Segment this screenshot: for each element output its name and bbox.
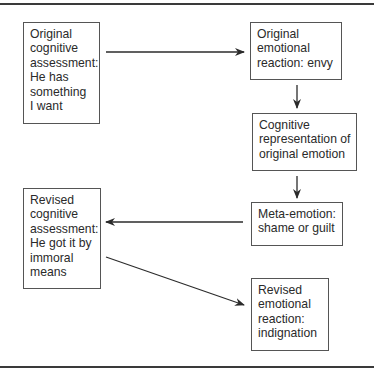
node-line: He has — [30, 70, 93, 84]
node-cognitive-representation: Cognitive representation of original emo… — [252, 113, 357, 171]
node-line: assessment: — [30, 56, 93, 70]
node-revised-cognitive-assessment: Revised cognitive assessment: He got it … — [23, 188, 101, 289]
node-line: indignation — [258, 326, 322, 340]
node-line: something — [30, 85, 93, 99]
node-line: He got it by — [30, 236, 94, 250]
node-line: Meta-emotion: — [258, 207, 336, 221]
node-line: immoral — [30, 251, 94, 265]
node-line: Cognitive — [259, 118, 350, 132]
node-line: assessment: — [30, 222, 94, 236]
node-revised-emotional-reaction: Revised emotional reaction: indignation — [251, 278, 329, 351]
node-line: Revised — [258, 283, 322, 297]
node-line: representation of — [259, 132, 350, 146]
node-original-emotional-reaction: Original emotional reaction: envy — [250, 22, 342, 80]
node-line: original emotion — [259, 147, 350, 161]
node-line: shame or guilt — [258, 221, 336, 235]
node-line: Original — [30, 27, 93, 41]
node-line: means — [30, 265, 94, 279]
node-meta-emotion: Meta-emotion: shame or guilt — [251, 202, 343, 246]
node-line: Original — [257, 27, 335, 41]
arrow-n5-to-n6 — [106, 257, 244, 305]
node-line: Revised — [30, 193, 94, 207]
node-line: reaction: envy — [257, 56, 335, 70]
node-line: reaction: — [258, 312, 322, 326]
node-line: cognitive — [30, 207, 94, 221]
node-original-cognitive-assessment: Original cognitive assessment: He has so… — [23, 22, 100, 124]
node-line: cognitive — [30, 41, 93, 55]
node-line: emotional — [258, 297, 322, 311]
node-line: emotional — [257, 41, 335, 55]
node-line: I want — [30, 99, 93, 113]
